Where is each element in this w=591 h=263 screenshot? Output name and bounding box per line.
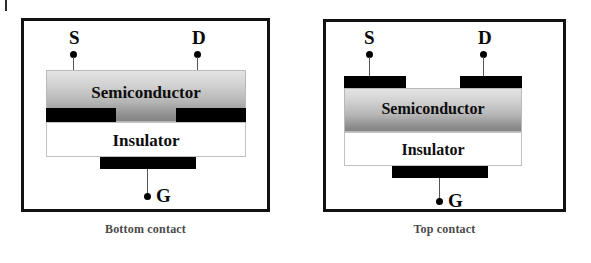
drain-terminal-label-right: D <box>478 28 492 47</box>
source-terminal-label-left: S <box>69 28 80 47</box>
insulator-layer-label-right: Insulator <box>345 142 521 158</box>
semiconductor-layer-label-left: Semiconductor <box>47 84 245 101</box>
insulator-layer-left: Insulator <box>46 122 246 157</box>
diagram-panel-bottom-contact: S D Semiconductor Insulator G <box>21 18 270 212</box>
gate-contact-bar-right <box>392 166 488 178</box>
insulator-layer-label-left: Insulator <box>47 132 245 149</box>
diagram-panel-top-contact: S D Semiconductor Insulator G <box>323 19 566 212</box>
drain-contact-bar-left <box>176 108 246 122</box>
gate-node-dot-right <box>436 198 443 205</box>
drain-lead-line-right <box>483 57 484 78</box>
caption-bottom-contact: Bottom contact <box>21 222 270 237</box>
scan-artifact-tick <box>5 0 7 11</box>
gate-contact-bar-left <box>100 157 196 169</box>
gate-terminal-label-left: G <box>156 186 171 205</box>
insulator-layer-right: Insulator <box>344 132 522 166</box>
source-terminal-label-right: S <box>364 28 375 47</box>
drain-terminal-label-left: D <box>192 28 206 47</box>
gate-node-dot-left <box>144 193 151 200</box>
semiconductor-layer-right: Semiconductor <box>344 88 522 132</box>
source-lead-line-right <box>369 57 370 78</box>
gate-terminal-label-right: G <box>448 191 463 210</box>
semiconductor-layer-label-right: Semiconductor <box>345 101 521 117</box>
gate-lead-line-left <box>147 169 148 196</box>
source-contact-bar-left <box>46 108 116 122</box>
caption-top-contact: Top contact <box>323 222 566 237</box>
